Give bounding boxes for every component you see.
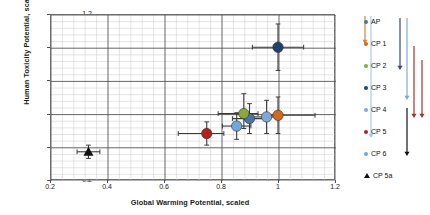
legend-marker-icon — [364, 42, 368, 46]
legend-item-label: CP 5 — [371, 128, 386, 135]
x-tick-label: 0.4 — [87, 183, 127, 190]
lightblue-arrow — [404, 18, 409, 100]
legend-item-label: AP — [371, 18, 380, 25]
legend-item-label: CP 6 — [371, 150, 386, 157]
legend-item-label: CP 1 — [371, 40, 386, 47]
data-points-layer — [50, 14, 335, 180]
darkred-arrow-2 — [419, 60, 424, 118]
legend-marker-icon — [364, 152, 368, 156]
error-bars — [178, 122, 224, 145]
data-point-marker-cp-1 — [273, 110, 283, 120]
legend-item-ap[interactable]: AP — [364, 16, 380, 27]
data-point-marker-cp-4 — [261, 112, 271, 122]
data-point-marker-cp-3 — [273, 42, 283, 52]
legend-item-label: CP 2 — [371, 62, 386, 69]
x-tick-label: 1.2 — [315, 183, 355, 190]
y-axis-title: Human Toxicity Potential, scaled — [22, 0, 31, 122]
legend-item-cp-1[interactable]: CP 1 — [364, 38, 386, 49]
x-tick-label: 1 — [258, 183, 298, 190]
data-point-marker-cp-5 — [202, 128, 212, 138]
legend-marker-icon — [364, 20, 368, 24]
legend-marker-icon — [364, 130, 368, 134]
navy-arrow — [397, 18, 402, 70]
scatter-chart: Human Toxicity Potential, scaled Global … — [0, 0, 430, 215]
legend-item-label: CP 3 — [371, 84, 386, 91]
x-tick-label: 0.2 — [30, 183, 70, 190]
legend-marker-icon — [364, 173, 370, 178]
legend-item-cp-5a[interactable]: CP 5a — [364, 170, 392, 181]
legend-item-cp-2[interactable]: CP 2 — [364, 60, 386, 71]
x-axis-title: Global Warming Potential, scaled — [45, 198, 335, 207]
x-tick-label: 0.8 — [201, 183, 241, 190]
legend-marker-icon — [364, 108, 368, 112]
legend-item-cp-3[interactable]: CP 3 — [364, 82, 386, 93]
data-point-marker-cp-2 — [239, 108, 249, 118]
legend-item-label: CP 5a — [373, 172, 392, 179]
legend-item-label: CP 4 — [371, 106, 386, 113]
black-arrow — [404, 108, 409, 156]
legend-marker-icon — [364, 86, 368, 90]
legend-marker-icon — [364, 64, 368, 68]
x-tick-label: 0.6 — [144, 183, 184, 190]
legend: APCP 1CP 2CP 3CP 4CP 5CP 6CP 5a — [356, 8, 430, 180]
legend-item-cp-4[interactable]: CP 4 — [364, 104, 386, 115]
legend-item-cp-6[interactable]: CP 6 — [364, 148, 386, 159]
lightblue-line — [368, 16, 373, 138]
darkred-arrow-1 — [411, 46, 416, 118]
data-point-marker-cp-6 — [231, 121, 241, 131]
legend-item-cp-5[interactable]: CP 5 — [364, 126, 386, 137]
